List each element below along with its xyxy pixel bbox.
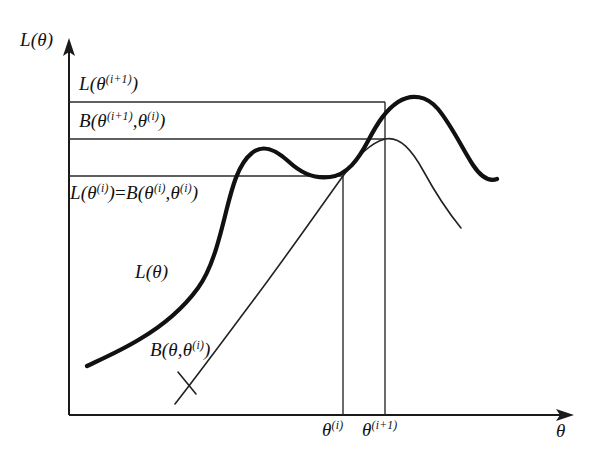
figure-canvas — [0, 0, 601, 467]
level-label-B-theta-i-plus-1: B(θ(i+1),θ(i)) — [79, 111, 166, 130]
x-tick-label-theta-i: θ(i) — [322, 420, 343, 439]
level-label-L-theta-i-equals-B: L(θ(i))=B(θ(i),θ(i)) — [70, 183, 198, 202]
x-tick-label-theta-i-plus-1: θ(i+1) — [362, 420, 397, 439]
em-bound-figure: L(θ) L(θ(i+1)) B(θ(i+1),θ(i)) L(θ(i))=B(… — [0, 0, 601, 467]
b-label-leader-line — [178, 372, 196, 394]
curve-L-loglikelihood — [87, 97, 497, 366]
x-axis-label: θ — [556, 421, 566, 440]
curve-label-L: L(θ) — [135, 262, 168, 281]
y-axis-label: L(θ) — [20, 30, 53, 49]
curve-label-B: B(θ,θ(i)) — [150, 340, 211, 359]
level-label-L-theta-i-plus-1: L(θ(i+1)) — [79, 74, 138, 93]
